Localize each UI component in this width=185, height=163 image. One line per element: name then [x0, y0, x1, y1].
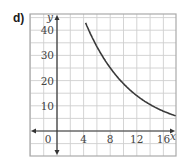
- tick-labels: 048121610203040xy: [41, 11, 176, 145]
- x-tick-label: 4: [80, 133, 87, 145]
- x-tick-label: 8: [107, 133, 114, 145]
- x-tick-label: 0: [45, 133, 52, 145]
- x-tick-label: 16: [157, 133, 171, 145]
- y-axis-label: y: [46, 11, 54, 23]
- y-tick-label: 20: [41, 75, 54, 87]
- x-axis-label: x: [170, 130, 176, 142]
- chart: 048121610203040xy: [0, 0, 185, 163]
- y-tick-label: 10: [41, 100, 54, 112]
- data-curve: [86, 23, 175, 116]
- y-tick-label: 40: [41, 24, 54, 36]
- y-tick-label: 30: [41, 49, 54, 61]
- x-tick-label: 12: [130, 133, 143, 145]
